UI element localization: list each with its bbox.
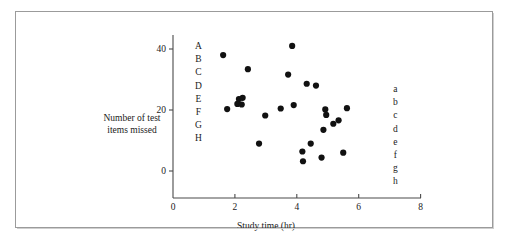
left-letter-column: ABCDEFGH: [195, 40, 202, 146]
data-point: [344, 105, 350, 111]
right-letter-f: f: [394, 149, 397, 162]
data-point: [224, 106, 230, 112]
data-point: [299, 148, 305, 154]
left-letter-D: D: [195, 80, 202, 93]
x-axis-tick-label: 4: [294, 202, 299, 212]
scatter-plot-figure: 0204002468 Study time (hr) Number of tes…: [0, 0, 506, 243]
data-point: [256, 140, 262, 146]
data-point: [291, 102, 297, 108]
data-point: [278, 105, 284, 111]
data-point: [330, 121, 336, 127]
right-letter-h: h: [393, 175, 398, 188]
data-point: [318, 154, 324, 160]
data-point: [335, 117, 341, 123]
data-point: [320, 127, 326, 133]
y-axis-tick-label: 40: [157, 44, 167, 54]
data-point: [262, 112, 268, 118]
axes-group: [173, 35, 421, 198]
right-letter-column: abcdefgh: [393, 83, 398, 189]
data-points-group: [220, 43, 350, 164]
right-letter-e: e: [393, 136, 397, 149]
data-point: [289, 43, 295, 49]
data-point: [340, 150, 346, 156]
data-point: [300, 158, 306, 164]
y-axis-title-line-1: Number of test: [104, 113, 161, 123]
data-point: [322, 106, 328, 112]
data-point: [245, 66, 251, 72]
data-point: [304, 81, 310, 87]
left-letter-G: G: [195, 119, 202, 132]
y-axis-tick-label: 0: [161, 166, 166, 176]
x-axis-tick-label: 8: [418, 202, 423, 212]
x-axis-tick-label: 2: [233, 202, 238, 212]
left-letter-B: B: [195, 53, 201, 66]
data-point: [285, 72, 291, 78]
left-letter-E: E: [196, 93, 202, 106]
data-point: [308, 140, 314, 146]
y-axis-title: Number of test items missed: [88, 112, 176, 136]
x-axis-tick-label: 0: [171, 202, 176, 212]
right-letter-d: d: [393, 123, 398, 136]
data-point: [323, 112, 329, 118]
left-letter-C: C: [195, 66, 201, 79]
ticks-group: [169, 49, 421, 198]
figure-frame: 0204002468 Study time (hr) Number of tes…: [15, 11, 493, 228]
right-letter-b: b: [393, 96, 398, 109]
x-axis-title: Study time (hr): [237, 221, 295, 231]
right-letter-g: g: [393, 162, 398, 175]
data-point: [239, 101, 245, 107]
left-letter-H: H: [195, 132, 202, 145]
data-point: [313, 83, 319, 89]
right-letter-c: c: [393, 109, 397, 122]
data-point: [240, 95, 246, 101]
x-axis-tick-label: 6: [356, 202, 361, 212]
right-letter-a: a: [393, 83, 397, 96]
left-letter-A: A: [195, 40, 202, 53]
data-point: [220, 52, 226, 58]
left-letter-F: F: [196, 106, 201, 119]
y-axis-title-line-2: items missed: [107, 125, 156, 135]
